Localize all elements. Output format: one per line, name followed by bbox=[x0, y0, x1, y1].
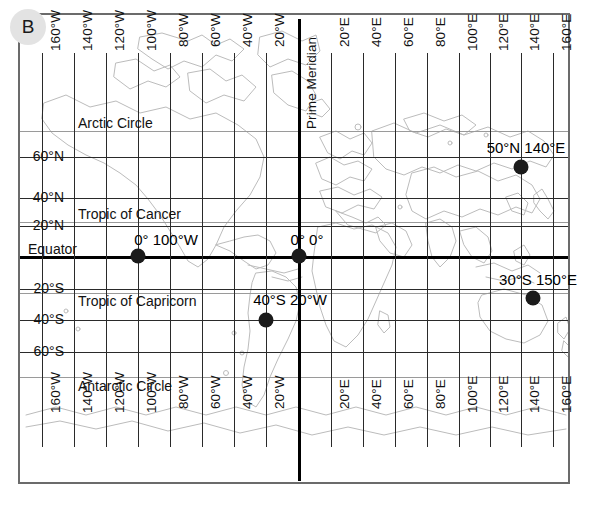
map-panel: Arctic Circle Tropic of Cancer Tropic of… bbox=[0, 0, 589, 505]
axis-label-top-lon-160w: 160°W bbox=[48, 10, 63, 51]
axis-label-bottom-lon-40w: 40°W bbox=[240, 375, 255, 409]
axis-label-lat-20n: 20°N bbox=[18, 217, 64, 233]
gridline-lat-40s bbox=[20, 320, 568, 321]
axis-label-bottom-lon-120w: 120°W bbox=[112, 372, 127, 413]
axis-label-top-lon-20e: 20°E bbox=[337, 17, 352, 47]
axis-label-top-lon-60e: 60°E bbox=[401, 17, 416, 47]
gridline-lon-120e bbox=[490, 53, 491, 447]
marker-dot-30s-150e[interactable] bbox=[526, 291, 541, 306]
axis-label-top-lon-40e: 40°E bbox=[369, 17, 384, 47]
axis-label-top-lon-120e: 120°E bbox=[496, 14, 511, 51]
gridline-tropic-of-cancer bbox=[20, 222, 568, 223]
axis-label-top-lon-140w: 140°W bbox=[80, 10, 95, 51]
gridline-lon-80e bbox=[427, 53, 428, 447]
axis-label-top-lon-40w: 40°W bbox=[240, 13, 255, 47]
axis-label-lat-60n: 60°N bbox=[18, 148, 64, 164]
axis-label-bottom-lon-60w: 60°W bbox=[208, 375, 223, 409]
axis-label-bottom-lon-80w: 80°W bbox=[176, 375, 191, 409]
gridline-lon-140e bbox=[521, 53, 522, 447]
gridline-lon-60e bbox=[395, 53, 396, 447]
axis-label-bottom-lon-100e: 100°E bbox=[465, 376, 480, 413]
map-frame: Arctic Circle Tropic of Cancer Tropic of… bbox=[18, 13, 570, 484]
marker-label-0n-0e: 0° 0° bbox=[291, 231, 324, 248]
gridline-lon-20e bbox=[331, 53, 332, 447]
marker-dot-0n-100w[interactable] bbox=[131, 249, 146, 264]
world-coastlines-layer bbox=[20, 15, 568, 482]
axis-label-top-lon-80w: 80°W bbox=[176, 13, 191, 47]
gridline-lat-60n bbox=[20, 157, 568, 158]
marker-label-30s-150e: 30°S 150°E bbox=[499, 271, 577, 288]
axis-label-bottom-lon-80e: 80°E bbox=[433, 379, 448, 409]
panel-badge: B bbox=[10, 9, 46, 45]
axis-label-bottom-lon-120e: 120°E bbox=[496, 376, 511, 413]
gridline-lon-100e bbox=[459, 53, 460, 447]
axis-label-top-lon-160e: 160°E bbox=[559, 14, 574, 51]
marker-label-50n-140e: 50°N 140°E bbox=[487, 139, 566, 156]
axis-label-lat-40n: 40°N bbox=[18, 189, 64, 205]
marker-dot-50n-140e[interactable] bbox=[514, 160, 529, 175]
gridline-arctic-circle bbox=[20, 131, 568, 132]
axis-label-lat-40s: 40°S bbox=[18, 311, 64, 327]
axis-label-bottom-lon-160w: 160°W bbox=[48, 372, 63, 413]
gridline-lon-20w bbox=[266, 53, 267, 447]
marker-dot-40s-20w[interactable] bbox=[259, 313, 274, 328]
axis-label-top-lon-120w: 120°W bbox=[112, 10, 127, 51]
axis-label-bottom-lon-20e: 20°E bbox=[337, 379, 352, 409]
label-arctic-circle: Arctic Circle bbox=[78, 115, 153, 131]
axis-label-bottom-lon-60e: 60°E bbox=[401, 379, 416, 409]
axis-label-top-lon-60w: 60°W bbox=[208, 13, 223, 47]
axis-label-bottom-lon-140w: 140°W bbox=[80, 372, 95, 413]
coastline-svg bbox=[20, 15, 568, 482]
axis-label-top-lon-100w: 100°W bbox=[144, 10, 159, 51]
gridline-lon-60w bbox=[202, 53, 203, 447]
marker-label-0n-100w: 0° 100°W bbox=[134, 231, 198, 248]
axis-label-top-lon-140e: 140°E bbox=[527, 14, 542, 51]
gridline-lat-40n bbox=[20, 198, 568, 199]
gridline-lon-40e bbox=[363, 53, 364, 447]
gridline-lon-160e bbox=[553, 53, 554, 447]
axis-label-bottom-lon-40e: 40°E bbox=[369, 379, 384, 409]
gridline-lat-60s bbox=[20, 352, 568, 353]
axis-label-bottom-lon-160e: 160°E bbox=[559, 376, 574, 413]
panel-badge-label: B bbox=[22, 16, 35, 38]
marker-dot-0n-0e[interactable] bbox=[292, 249, 307, 264]
axis-label-bottom-lon-20w: 20°W bbox=[272, 375, 287, 409]
gridline-lon-40w bbox=[234, 53, 235, 447]
axis-label-top-lon-80e: 80°E bbox=[433, 17, 448, 47]
axis-label-bottom-lon-100w: 100°W bbox=[144, 372, 159, 413]
axis-label-prime-meridian: Prime Meridian bbox=[304, 37, 319, 129]
axis-label-bottom-lon-140e: 140°E bbox=[527, 376, 542, 413]
axis-label-top-lon-100e: 100°E bbox=[465, 14, 480, 51]
marker-label-40s-20w: 40°S 20°W bbox=[253, 291, 327, 308]
axis-label-equator: Equator bbox=[28, 241, 88, 257]
axis-label-lat-20s: 20°S bbox=[18, 280, 64, 296]
axis-label-lat-60s: 60°S bbox=[18, 343, 64, 359]
gridline-lat-20n bbox=[20, 226, 568, 227]
label-tropic-of-capricorn: Tropic of Capricorn bbox=[78, 293, 197, 309]
label-tropic-of-cancer: Tropic of Cancer bbox=[78, 206, 181, 222]
axis-label-top-lon-20w: 20°W bbox=[272, 13, 287, 47]
